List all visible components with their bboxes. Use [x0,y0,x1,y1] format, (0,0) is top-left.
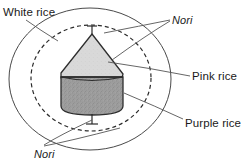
nori-top-leader-b [112,21,170,60]
label-nori-top: Nori [172,14,193,26]
cylinder-purple-rice-body [61,77,123,115]
cone-pink-rice [61,34,123,78]
label-pink-rice: Pink rice [192,70,237,83]
purple-rice-leader [124,93,183,119]
diagram-svg [0,0,252,166]
nori-bottom-leader-b [44,128,120,146]
tick-top-nori [87,26,97,35]
nori-top-leader-a [104,20,170,33]
diagram-canvas: White rice Nori Pink rice Purple rice No… [0,0,252,166]
label-nori-bottom: Nori [34,148,55,160]
label-purple-rice: Purple rice [185,117,241,130]
label-white-rice: White rice [3,6,55,19]
